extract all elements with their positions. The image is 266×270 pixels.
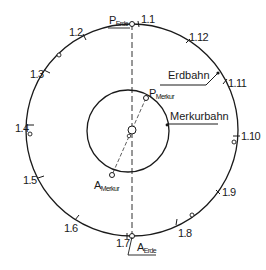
month-label: 1.3: [30, 68, 44, 80]
mercury-orbit-label: Merkurbahn: [170, 110, 229, 122]
mercury-aphelion-label: AMerkur: [94, 179, 120, 192]
month-label: 1.2: [69, 26, 83, 38]
earth-point-marker: [190, 213, 194, 217]
month-label: 1.7: [116, 237, 130, 249]
month-label: 1.10: [241, 130, 260, 142]
orbit-diagram: PErde PMerkur AMerkur AErde Erdbahn Merk…: [0, 0, 266, 270]
month-label: 1.12: [189, 31, 208, 43]
month-label: 1.5: [23, 174, 37, 186]
earth-perihelion-label: PErde: [109, 14, 129, 27]
mercury-aphelion-marker: [110, 173, 115, 178]
sun-icon: [128, 126, 136, 134]
mercury-perihelion-marker: [144, 96, 149, 101]
mercury-perihelion-label: PMerkur: [149, 87, 175, 100]
earth-orbit-label: Erdbahn: [168, 69, 210, 81]
earth-aphelion-label: AErde: [137, 241, 157, 254]
month-label: 1.9: [222, 186, 236, 198]
month-label: 1.6: [64, 222, 78, 234]
earth-point-marker: [28, 132, 32, 136]
earth-point-marker: [57, 53, 61, 57]
orbit-svg: PErde PMerkur AMerkur AErde Erdbahn Merk…: [0, 0, 266, 270]
month-label: 1.11: [228, 77, 247, 89]
mercury-orbit-center-icon: [127, 134, 131, 138]
month-label: 1.8: [178, 227, 192, 239]
earth-point-marker: [232, 140, 236, 144]
month-label: 1.1: [141, 13, 155, 25]
month-label: 1.4: [15, 122, 29, 134]
earth-perihelion-marker: [130, 22, 135, 27]
